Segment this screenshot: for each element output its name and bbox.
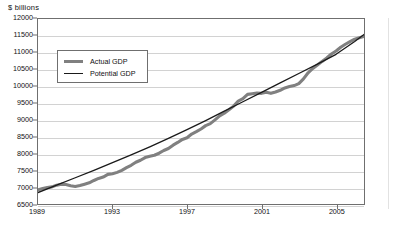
y-tick-label: 9000: [17, 116, 33, 123]
x-tick-mark: [262, 205, 263, 209]
y-axis-title: $ billions: [8, 3, 39, 12]
y-tick-label: 10500: [13, 65, 33, 72]
x-tick-mark: [112, 205, 113, 209]
y-tick-label: 10000: [13, 82, 33, 89]
x-tick-label: 2001: [254, 208, 270, 215]
y-tick-label: 9500: [17, 99, 33, 106]
y-tick-label: 12000: [13, 14, 33, 21]
gdp-gap-chart: $ billions 12000115001100010500100009500…: [0, 0, 393, 229]
y-tick-label: 8000: [17, 150, 33, 157]
legend-swatch-actual-gdp: [64, 60, 83, 63]
x-tick-label: 1989: [29, 208, 45, 215]
x-tick-mark: [187, 205, 188, 209]
y-axis-tick-labels: 1200011500110001050010000950090008500800…: [0, 18, 35, 205]
gridline: [38, 206, 364, 207]
legend-label-potential-gdp: Potential GDP: [90, 70, 136, 77]
x-tick-label: 1993: [104, 208, 120, 215]
legend-swatch-potential-gdp: [64, 73, 83, 74]
legend-item-potential-gdp: Potential GDP: [64, 68, 136, 79]
plot-area: [37, 18, 365, 205]
series-layer: [38, 19, 364, 204]
x-tick-label: 1997: [179, 208, 195, 215]
legend-item-actual-gdp: Actual GDP: [64, 56, 128, 67]
y-tick-label: 7500: [17, 167, 33, 174]
y-tick-label: 7000: [17, 184, 33, 191]
legend-label-actual-gdp: Actual GDP: [90, 58, 128, 65]
x-tick-mark: [337, 205, 338, 209]
x-tick-label: 2005: [329, 208, 345, 215]
chart-legend: Actual GDP Potential GDP: [57, 50, 148, 83]
y-tick-label: 11000: [14, 48, 33, 55]
x-axis-tick-labels: 19891993199720012005: [0, 208, 393, 224]
y-tick-label: 11500: [14, 31, 33, 38]
y-tick-label: 8500: [17, 133, 33, 140]
page-right-edge: [388, 18, 389, 209]
